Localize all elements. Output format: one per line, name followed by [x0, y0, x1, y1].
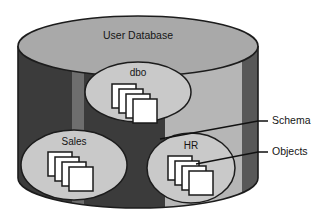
- database-title: User Database: [103, 29, 173, 41]
- schema-group-dbo[interactable]: dbo: [85, 62, 191, 123]
- callout-label-schema: Schema: [272, 114, 311, 126]
- schema-group-hr[interactable]: HR: [147, 133, 235, 203]
- object-icon: [69, 167, 93, 191]
- schema-group-sales[interactable]: Sales: [21, 130, 127, 200]
- user-database-diagram: User Database dbo Sales: [0, 0, 313, 224]
- schema-label-hr: HR: [184, 140, 198, 151]
- diagram-canvas: User Database dbo Sales: [0, 0, 313, 224]
- object-icon: [133, 99, 157, 123]
- object-icon: [189, 171, 213, 195]
- schema-label-dbo: dbo: [130, 67, 147, 78]
- callout-label-objects: Objects: [272, 145, 308, 157]
- schema-label-sales: Sales: [61, 136, 86, 147]
